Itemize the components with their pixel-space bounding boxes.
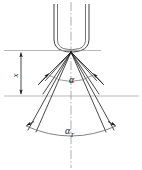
spray-ray-outer-right bbox=[71, 52, 114, 130]
outer-cone-angle-label: αT bbox=[65, 126, 74, 139]
inner-cone-angle-label: α bbox=[69, 75, 74, 85]
figure-container: x α αT bbox=[0, 0, 142, 170]
outer-cone-angle-subscript: T bbox=[70, 131, 74, 138]
height-dimension-label: x bbox=[11, 74, 20, 78]
spray-ray-outer-left bbox=[28, 52, 71, 130]
spray-ray-cone-left bbox=[43, 52, 71, 94]
spray-ray-outer-right-b bbox=[71, 52, 106, 132]
spray-ray-cone-right bbox=[71, 52, 99, 94]
nozzle-body bbox=[54, 4, 89, 52]
spray-ray-outer-left-b bbox=[36, 52, 71, 132]
spray-nozzle-diagram bbox=[0, 0, 142, 170]
